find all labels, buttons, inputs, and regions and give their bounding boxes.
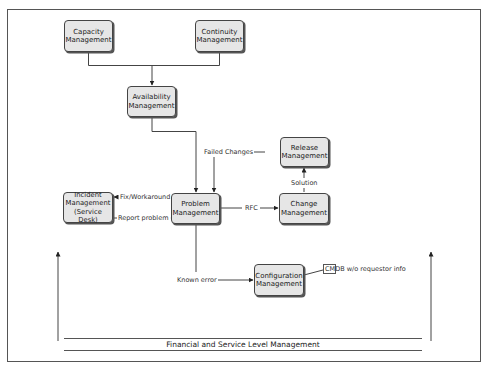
node-label: Configuration Management [255, 272, 303, 289]
edge-label-fix-workaround: Fix/Workaround [119, 193, 171, 201]
node-release-management: Release Management [280, 137, 329, 167]
node-label: Problem Management [172, 200, 219, 217]
node-label: Continuity Management [196, 28, 243, 45]
edge-label-failed-changes: Failed Changes [203, 148, 254, 156]
node-label: Availability Management [128, 93, 175, 110]
edge-label-known-error: Known error [176, 276, 218, 284]
cmdb-note: CMDB w/o requestor info [325, 265, 406, 273]
edge-label-report-problem: Report problem [117, 214, 170, 222]
node-problem-management: Problem Management [171, 193, 220, 224]
edge-label-rfc: RFC [244, 204, 259, 212]
node-label: Capacity Management [65, 28, 112, 45]
edge-label-solution: Solution [290, 179, 318, 187]
banner-financial-service-level: Financial and Service Level Management [64, 340, 422, 349]
node-label: Incident Management (Service Desk) [64, 191, 112, 225]
node-capacity-management: Capacity Management [64, 20, 113, 52]
node-label: Change Management [280, 200, 328, 217]
node-incident-management: Incident Management (Service Desk) [63, 192, 113, 223]
node-change-management: Change Management [279, 193, 329, 224]
node-label: Release Management [281, 144, 328, 161]
node-continuity-management: Continuity Management [195, 20, 244, 52]
diagram-canvas: Capacity Management Continuity Managemen… [0, 0, 489, 368]
node-configuration-management: Configuration Management [254, 264, 304, 296]
connector-layer [0, 0, 489, 368]
node-availability-management: Availability Management [127, 86, 176, 117]
